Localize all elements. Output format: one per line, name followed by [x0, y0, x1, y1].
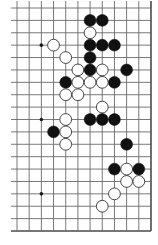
white-stone[interactable] [60, 138, 72, 150]
white-stone[interactable] [72, 76, 84, 88]
black-stone[interactable] [84, 52, 96, 64]
black-stone[interactable] [84, 114, 96, 126]
star-point [40, 43, 44, 47]
white-stone[interactable] [96, 200, 108, 212]
white-stone[interactable] [96, 101, 108, 113]
black-stone[interactable] [84, 14, 96, 26]
go-board[interactable] [0, 0, 158, 245]
black-stone[interactable] [60, 76, 72, 88]
white-stone[interactable] [96, 64, 108, 76]
white-stone[interactable] [60, 114, 72, 126]
black-stone[interactable] [84, 39, 96, 51]
white-stone[interactable] [72, 89, 84, 101]
black-stone[interactable] [109, 39, 121, 51]
white-stone[interactable] [72, 64, 84, 76]
star-point [40, 118, 44, 122]
black-stone[interactable] [48, 126, 60, 138]
white-stone[interactable] [60, 89, 72, 101]
white-stone[interactable] [84, 27, 96, 39]
black-stone[interactable] [84, 64, 96, 76]
white-stone[interactable] [109, 188, 121, 200]
black-stone[interactable] [96, 39, 108, 51]
white-stone[interactable] [60, 52, 72, 64]
stones-layer [48, 14, 145, 212]
white-stone[interactable] [96, 76, 108, 88]
black-stone[interactable] [96, 14, 108, 26]
black-stone[interactable] [109, 76, 121, 88]
board-grid [11, 1, 151, 231]
black-stone[interactable] [121, 138, 133, 150]
white-stone[interactable] [133, 176, 145, 188]
white-stone[interactable] [84, 76, 96, 88]
white-stone[interactable] [121, 163, 133, 175]
white-stone[interactable] [121, 176, 133, 188]
black-stone[interactable] [109, 114, 121, 126]
black-stone[interactable] [133, 163, 145, 175]
black-stone[interactable] [109, 163, 121, 175]
black-stone[interactable] [96, 114, 108, 126]
black-stone[interactable] [121, 64, 133, 76]
white-stone[interactable] [60, 126, 72, 138]
white-stone[interactable] [48, 39, 60, 51]
star-point [40, 192, 44, 196]
